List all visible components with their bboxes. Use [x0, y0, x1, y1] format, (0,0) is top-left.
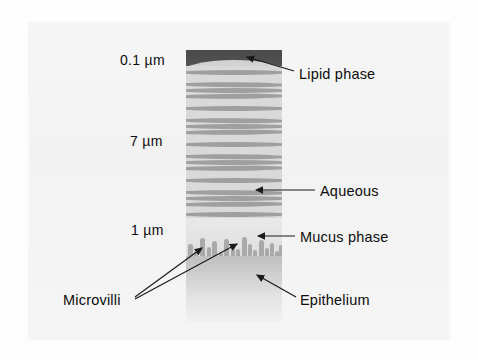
- epithelium-layer: [186, 256, 282, 322]
- aqueous-lamella: [186, 165, 282, 171]
- aqueous-lamella: [186, 129, 282, 135]
- aqueous-lamella: [186, 201, 282, 207]
- aqueous-lamella: [186, 82, 282, 88]
- callout-label-epithelium: Epithelium: [300, 292, 370, 308]
- aqueous-lamella: [186, 178, 282, 183]
- callout-label-lipid-phase: Lipid phase: [299, 66, 375, 82]
- aqueous-lamella: [186, 212, 282, 217]
- aqueous-lamella: [186, 160, 282, 165]
- callout-label-microvilli: Microvilli: [63, 292, 121, 308]
- aqueous-lamella: [186, 190, 282, 196]
- aqueous-layer: [186, 66, 282, 218]
- specimen-column: [186, 50, 282, 322]
- scale-label-lipid-thickness: 0.1 µm: [120, 52, 165, 68]
- aqueous-lamella: [186, 93, 282, 99]
- aqueous-lamella: [186, 106, 282, 111]
- aqueous-lamella: [186, 142, 282, 147]
- callout-label-aqueous: Aqueous: [320, 183, 379, 199]
- aqueous-lamella: [186, 154, 282, 160]
- scale-label-mucus-thickness: 1 µm: [131, 222, 164, 238]
- aqueous-lamella: [186, 88, 282, 93]
- aqueous-lamella: [186, 70, 282, 75]
- figure-root: 0.1 µm 7 µm 1 µm Lipid phase Aqueous Muc…: [0, 0, 478, 360]
- aqueous-lamella: [186, 118, 282, 124]
- callout-label-mucus-phase: Mucus phase: [300, 229, 388, 245]
- aqueous-lamella: [186, 196, 282, 201]
- scale-label-aqueous-thickness: 7 µm: [130, 133, 163, 149]
- aqueous-lamella: [186, 124, 282, 129]
